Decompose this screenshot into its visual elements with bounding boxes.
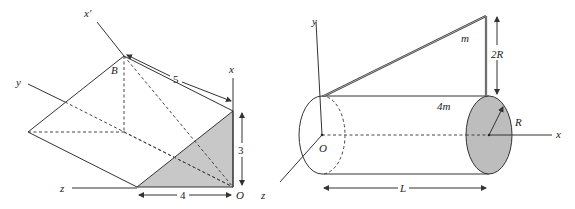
origin-label: O <box>319 142 327 154</box>
x-label: x <box>555 128 561 140</box>
prism-edges <box>28 56 233 132</box>
radius-label: R <box>514 116 522 128</box>
z-label: z <box>59 182 65 194</box>
point-b-label: B <box>111 64 118 76</box>
rod-height-label: 2R <box>491 48 504 60</box>
x-prime-axis <box>97 22 124 56</box>
cylinder-mass-label: 4m <box>437 100 451 112</box>
prism-diagram: x′ x y z B O 5 3 4 <box>15 7 244 201</box>
x-prime-label: x′ <box>83 7 92 19</box>
z-label: z <box>260 189 266 201</box>
dim-4-label: 4 <box>180 189 186 201</box>
shaded-triangle-face <box>137 111 233 187</box>
dim-3-label: 3 <box>238 144 244 156</box>
prism-bottom-edge <box>28 132 137 187</box>
rod-mass-label: m <box>461 32 469 44</box>
y-axis <box>28 84 65 102</box>
length-label: L <box>399 182 406 194</box>
x-label: x <box>228 63 234 75</box>
y-axis <box>316 22 322 135</box>
cylinder-diagram: y x z O m 4m 2R R L <box>260 15 561 201</box>
cylinder-left-end-front <box>299 96 322 174</box>
y-label: y <box>15 76 21 88</box>
dim-5-arrow-left <box>127 55 170 76</box>
z-axis <box>280 135 322 182</box>
dim-5-label: 5 <box>173 73 179 85</box>
figure-canvas: x′ x y z B O 5 3 4 <box>0 0 575 209</box>
y-label: y <box>311 15 317 27</box>
origin-label: O <box>236 189 244 201</box>
